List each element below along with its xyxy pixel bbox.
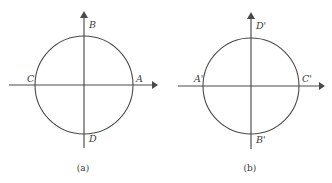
panel-b-caption: (b)	[238, 164, 262, 173]
point-label-d: D	[89, 134, 97, 144]
panel-a-caption: (a)	[71, 164, 95, 173]
panel-a-x-axis-arrowhead	[152, 81, 158, 89]
point-label-b-prime: B'	[256, 135, 266, 145]
panel-b-x-axis-arrowhead	[319, 82, 325, 90]
figure-container: A B C D A' B' C' D' (a) (b)	[0, 0, 332, 183]
panel-b-y-axis-arrowhead	[247, 12, 255, 19]
point-label-a-prime: A'	[194, 74, 203, 84]
point-label-a: A	[136, 74, 143, 84]
panel-a-y-axis-arrowhead	[80, 11, 88, 18]
point-label-b: B	[89, 20, 96, 30]
point-label-c-prime: C'	[302, 74, 312, 84]
point-label-c: C	[27, 74, 34, 84]
point-label-d-prime: D'	[256, 21, 266, 31]
geometry-diagram-canvas	[0, 0, 332, 183]
